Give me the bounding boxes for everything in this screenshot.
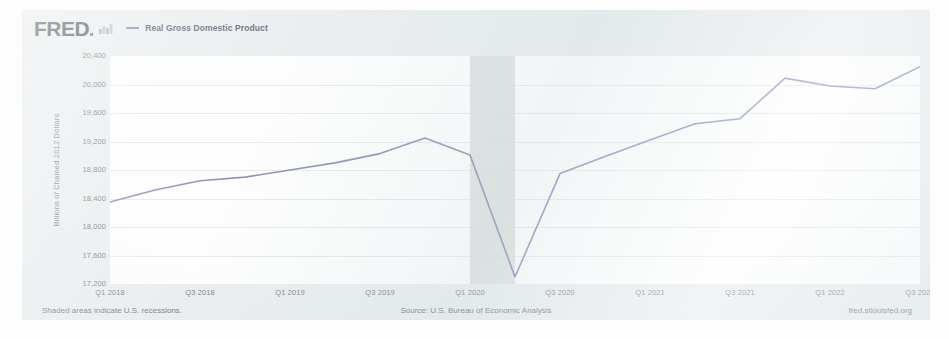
y-axis-tick-label: 18,000 — [62, 222, 106, 231]
y-axis-tick-label: 20,400 — [62, 51, 106, 60]
y-axis-tick-label: 19,200 — [62, 137, 106, 146]
chart-footer: Shaded areas indicate U.S. recessions. S… — [22, 306, 930, 320]
x-axis-tick-label: Q1 2018 — [95, 288, 124, 297]
mini-bar-chart-icon — [99, 22, 114, 34]
x-axis-tick-label: Q3 2018 — [185, 288, 214, 297]
legend-series-label: Real Gross Domestic Product — [145, 23, 268, 33]
x-axis-tick-label: Q1 2019 — [275, 288, 304, 297]
fred-chart-card: FRED Real Gross Domestic Product Billion… — [22, 10, 930, 320]
fred-logo-text: FRED — [34, 17, 89, 40]
x-axis-tick-label: Q3 2022 — [905, 288, 930, 297]
y-axis-tick-label: 17,200 — [62, 279, 106, 288]
footer-recession-note: Shaded areas indicate U.S. recessions. — [42, 306, 182, 315]
y-axis-tick-label: 17,600 — [62, 251, 106, 260]
y-axis-ticks: 20,40020,00019,60019,20018,80018,40018,0… — [58, 56, 106, 284]
fred-logo: FRED — [34, 18, 93, 39]
chart-legend: Real Gross Domestic Product — [126, 23, 268, 33]
footer-attribution: fred.stlouisfed.org — [848, 306, 912, 315]
plot-area — [110, 56, 920, 284]
y-axis-tick-label: 19,600 — [62, 108, 106, 117]
series-line-gdp — [110, 56, 920, 284]
x-axis-ticks: Q1 2018Q3 2018Q1 2019Q3 2019Q1 2020Q3 20… — [110, 288, 920, 302]
x-axis-tick-label: Q3 2019 — [365, 288, 394, 297]
x-axis-tick-label: Q3 2020 — [545, 288, 574, 297]
y-axis-tick-label: 18,800 — [62, 165, 106, 174]
y-axis-tick-label: 20,000 — [62, 80, 106, 89]
x-axis-tick-label: Q3 2021 — [725, 288, 754, 297]
x-axis-tick-label: Q1 2022 — [815, 288, 844, 297]
screenshot-root: FRED Real Gross Domestic Product Billion… — [0, 0, 949, 339]
x-axis-tick-label: Q1 2021 — [635, 288, 664, 297]
footer-source: Source: U.S. Bureau of Economic Analysis — [400, 306, 551, 315]
chart-header: FRED Real Gross Domestic Product — [22, 10, 930, 46]
x-axis-tick-label: Q1 2020 — [455, 288, 484, 297]
fred-logo-dot — [90, 33, 93, 36]
legend-color-swatch — [126, 27, 139, 29]
y-axis-tick-label: 18,400 — [62, 194, 106, 203]
